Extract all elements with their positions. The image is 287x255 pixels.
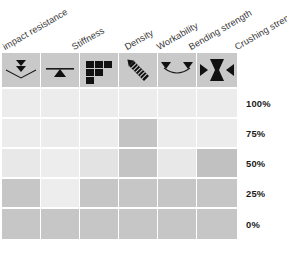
- heatmap-cell: [2, 209, 40, 239]
- heatmap-cell: [80, 209, 118, 239]
- column-header-stiffness: Stiffness: [70, 25, 106, 52]
- heatmap-cell: [2, 119, 40, 147]
- crushing-strength-icon: [197, 53, 237, 87]
- heatmap-cell: [2, 149, 40, 177]
- heatmap-cell: [119, 179, 157, 207]
- property-comparison-heatmap: impact resistance Stiffness Density Work…: [0, 0, 287, 255]
- heatmap-cell: [197, 89, 237, 117]
- stiffness-icon: [41, 53, 79, 87]
- heatmap-cell: [41, 119, 79, 147]
- heatmap-cell: [80, 119, 118, 147]
- workability-icon: [119, 53, 157, 87]
- impact-resistance-icon: [2, 53, 40, 87]
- heatmap-cell: [41, 179, 79, 207]
- heatmap-cell: [41, 149, 79, 177]
- heatmap-cell: [80, 89, 118, 117]
- heatmap-cell: [158, 89, 196, 117]
- heatmap-cell: [119, 119, 157, 147]
- heatmap-cell: [80, 149, 118, 177]
- bending-strength-icon: [158, 53, 196, 87]
- heatmap-cell: [158, 209, 196, 239]
- heatmap-cell: [197, 209, 237, 239]
- heatmap-cell: [2, 179, 40, 207]
- heatmap-cell: [119, 209, 157, 239]
- icon-row: [2, 53, 237, 87]
- row-label-100: 100%: [246, 98, 271, 109]
- heatmap-cell: [158, 119, 196, 147]
- column-header-group: impact resistance Stiffness Density Work…: [0, 0, 287, 52]
- row-label-0: 0%: [246, 219, 260, 230]
- heatmap-cell: [197, 179, 237, 207]
- row-label-75: 75%: [246, 128, 265, 139]
- row-label-25: 25%: [246, 188, 265, 199]
- heatmap-cell: [158, 149, 196, 177]
- density-icon: [80, 53, 118, 87]
- heatmap-cell: [41, 209, 79, 239]
- column-header-density: Density: [123, 28, 155, 52]
- heatmap-cell: [80, 179, 118, 207]
- heatmap-cell: [119, 89, 157, 117]
- heatmap-cell: [197, 119, 237, 147]
- heatmap-cell: [197, 149, 237, 177]
- heatmap-grid: [2, 89, 237, 239]
- heatmap-cell: [119, 149, 157, 177]
- heatmap-cell: [41, 89, 79, 117]
- heatmap-cell: [158, 179, 196, 207]
- row-label-group: 100% 75% 50% 25% 0%: [246, 89, 287, 239]
- row-label-50: 50%: [246, 158, 265, 169]
- column-header-impact-resistance: impact resistance: [1, 7, 69, 52]
- heatmap-cell: [2, 89, 40, 117]
